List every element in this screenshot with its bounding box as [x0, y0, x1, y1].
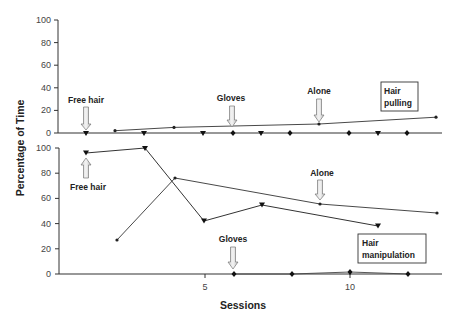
bottom-series-free-hair-line: [86, 148, 378, 226]
top-series-alone-markers: [113, 116, 437, 133]
y-tick-label: 60: [41, 193, 51, 203]
top-series-alone-line: [115, 117, 436, 131]
bottom-panel: 0 20 40 60 80 100 5 10: [36, 143, 442, 292]
bottom-arrow-gloves: [228, 247, 238, 269]
top-annotation-free-hair: Free hair: [68, 95, 105, 105]
top-y-ticks: 0 20 40 60 80 100: [36, 15, 58, 138]
y-tick-label: 80: [41, 38, 51, 48]
y-tick-label: 100: [36, 143, 51, 153]
top-panel-title-line1: Hair: [384, 86, 401, 96]
y-tick-label: 0: [46, 269, 51, 279]
bottom-annotation-gloves: Gloves: [219, 234, 248, 244]
x-axis-label: Sessions: [220, 299, 266, 311]
y-tick-label: 40: [41, 219, 51, 229]
bottom-series-free-hair-markers: [83, 146, 381, 229]
top-panel: 0 20 40 60 80 100 Free hair: [36, 15, 442, 138]
top-arrow-gloves: [227, 106, 237, 127]
y-tick-label: 20: [41, 105, 51, 115]
top-arrow-free-hair: [81, 107, 91, 130]
y-tick-label: 80: [41, 168, 51, 178]
top-panel-title-line2: pulling: [384, 98, 412, 108]
top-annotation-gloves: Gloves: [217, 93, 246, 103]
y-tick-label: 0: [46, 128, 51, 138]
bottom-panel-title-line1: Hair: [362, 238, 379, 248]
y-tick-label: 100: [36, 15, 51, 25]
bottom-arrow-free-hair: [81, 158, 91, 178]
bottom-panel-title-line2: manipulation: [362, 250, 415, 260]
x-ticks: 5 10: [202, 274, 355, 292]
bottom-y-ticks: 0 20 40 60 80 100: [36, 143, 59, 279]
bottom-series-alone-line: [117, 178, 437, 240]
bottom-annotation-alone: Alone: [310, 168, 334, 178]
top-arrow-alone: [314, 99, 324, 122]
x-tick-label: 5: [202, 282, 207, 292]
chart-canvas: Percentage of Time Sessions 0 20 40 60 8…: [0, 0, 456, 325]
x-tick-label: 10: [345, 282, 355, 292]
y-tick-label: 60: [41, 60, 51, 70]
y-axis-label: Percentage of Time: [14, 100, 26, 197]
bottom-annotation-free-hair: Free hair: [70, 182, 107, 192]
bottom-arrow-alone: [315, 180, 325, 200]
y-tick-label: 40: [41, 83, 51, 93]
y-tick-label: 20: [41, 244, 51, 254]
top-annotation-alone: Alone: [307, 86, 331, 96]
